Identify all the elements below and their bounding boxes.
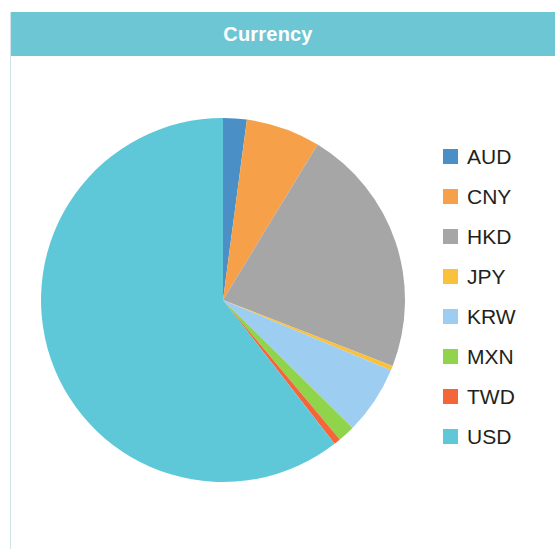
page-title: Currency xyxy=(223,23,312,46)
legend-item[interactable]: CNY xyxy=(443,176,553,216)
chart-area: AUDCNYHKDJPYKRWMXNTWDUSD xyxy=(11,56,555,549)
legend-item[interactable]: JPY xyxy=(443,256,553,296)
legend-item-label: HKD xyxy=(467,226,511,247)
chart-title-bar: Currency xyxy=(11,12,555,56)
legend-swatch-icon xyxy=(443,149,458,164)
pie-chart xyxy=(37,114,409,486)
chart-legend: AUDCNYHKDJPYKRWMXNTWDUSD xyxy=(443,136,553,456)
legend-swatch-icon xyxy=(443,429,458,444)
legend-item[interactable]: MXN xyxy=(443,336,553,376)
legend-item-label: JPY xyxy=(467,266,506,287)
legend-swatch-icon xyxy=(443,309,458,324)
legend-item-label: AUD xyxy=(467,146,511,167)
legend-item-label: USD xyxy=(467,426,511,447)
legend-item-label: KRW xyxy=(467,306,516,327)
legend-item[interactable]: USD xyxy=(443,416,553,456)
legend-item[interactable]: HKD xyxy=(443,216,553,256)
legend-item-label: MXN xyxy=(467,346,514,367)
legend-item[interactable]: TWD xyxy=(443,376,553,416)
pie-slice-group xyxy=(41,118,405,482)
legend-swatch-icon xyxy=(443,269,458,284)
legend-swatch-icon xyxy=(443,229,458,244)
legend-swatch-icon xyxy=(443,389,458,404)
page-root: Currency AUDCNYHKDJPYKRWMXNTWDUSD xyxy=(0,0,555,549)
pie-chart-svg xyxy=(37,114,409,486)
legend-item-label: CNY xyxy=(467,186,511,207)
legend-item-label: TWD xyxy=(467,386,515,407)
legend-item[interactable]: KRW xyxy=(443,296,553,336)
legend-swatch-icon xyxy=(443,349,458,364)
legend-item[interactable]: AUD xyxy=(443,136,553,176)
legend-swatch-icon xyxy=(443,189,458,204)
